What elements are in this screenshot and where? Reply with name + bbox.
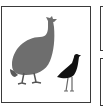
illustration-panel-bottom-right	[100, 58, 103, 106]
guineafowl-icon	[10, 16, 57, 84]
illustration-panel-top-right	[100, 6, 103, 51]
birds-illustration	[2, 7, 92, 104]
illustration-panel-main	[1, 6, 91, 103]
plover-icon	[57, 54, 81, 91]
